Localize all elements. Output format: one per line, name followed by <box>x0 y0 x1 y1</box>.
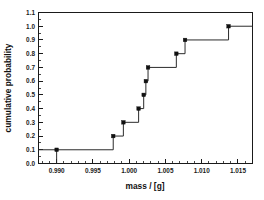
data-point-marker <box>144 79 148 83</box>
data-point-marker <box>146 66 150 70</box>
y-axis-tick-labels: 0.00.10.20.30.40.50.60.70.80.91.01.1 <box>26 9 35 167</box>
y-tick-label: 1.0 <box>26 23 35 30</box>
y-tick-label: 0.4 <box>26 105 35 112</box>
data-point-marker <box>183 38 187 42</box>
data-point-marker <box>55 148 59 152</box>
data-point-marker <box>175 52 179 56</box>
chart-figure: 0.9900.9951.0001.0051.0101.015 0.00.10.2… <box>0 0 264 200</box>
x-tick-label: 0.990 <box>49 167 65 174</box>
y-tick-label: 0.7 <box>26 64 35 71</box>
y-tick-label: 1.1 <box>26 9 35 16</box>
step-line-path <box>39 26 253 150</box>
data-point-marker <box>227 24 231 28</box>
x-tick-label: 1.010 <box>194 167 210 174</box>
x-axis-tick-labels: 0.9900.9951.0001.0051.0101.015 <box>49 167 247 174</box>
y-tick-label: 0.5 <box>26 91 35 98</box>
y-axis-title: cumulative probability <box>3 43 13 132</box>
x-tick-label: 1.000 <box>121 167 137 174</box>
data-point-markers <box>55 24 231 151</box>
x-axis-title: mass / [g] <box>125 181 164 191</box>
cumulative-probability-chart: 0.9900.9951.0001.0051.0101.015 0.00.10.2… <box>0 0 264 200</box>
y-tick-label: 0.0 <box>26 160 35 167</box>
y-tick-label: 0.8 <box>26 50 35 57</box>
y-tick-label: 0.3 <box>26 119 35 126</box>
x-axis-ticks <box>42 159 252 164</box>
y-tick-label: 0.6 <box>26 77 35 84</box>
y-axis-ticks <box>39 13 44 164</box>
data-point-marker <box>142 93 146 97</box>
data-point-marker <box>122 121 126 125</box>
y-tick-label: 0.1 <box>26 146 35 153</box>
x-tick-label: 1.015 <box>230 167 246 174</box>
x-tick-label: 1.005 <box>157 167 173 174</box>
y-tick-label: 0.9 <box>26 36 35 43</box>
data-point-marker <box>111 134 115 138</box>
y-tick-label: 0.2 <box>26 132 35 139</box>
x-tick-label: 0.995 <box>85 167 101 174</box>
data-point-marker <box>137 107 141 111</box>
